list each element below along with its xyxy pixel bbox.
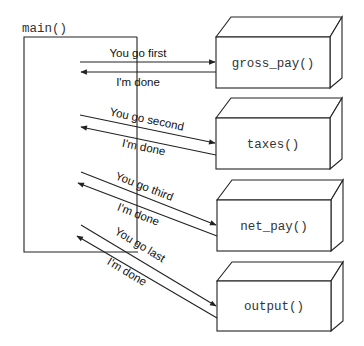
arrow-pair-1: You go first I'm done xyxy=(80,47,216,88)
arrow-pair-4: You go last I'm done xyxy=(77,225,217,318)
call-arrow xyxy=(81,225,216,306)
call-label: You go last xyxy=(113,225,168,265)
return-label: I'm done xyxy=(105,255,149,288)
return-label: I'm done xyxy=(116,201,161,228)
arrow-pair-3: You go third I'm done xyxy=(78,170,217,236)
function-box-output: output() xyxy=(217,262,343,331)
call-label: You go third xyxy=(114,170,175,203)
main-frame-outline xyxy=(24,37,138,252)
arrow-pair-2: You go second I'm done xyxy=(80,106,216,158)
function-box-net-pay: net_pay() xyxy=(217,180,343,251)
function-label: output() xyxy=(244,300,304,314)
call-label: You go first xyxy=(109,47,167,59)
return-label: I'm done xyxy=(116,76,160,88)
function-box-gross-pay: gross_pay() xyxy=(216,17,342,88)
function-box-taxes: taxes() xyxy=(216,98,342,169)
function-label: net_pay() xyxy=(240,220,308,234)
call-flow-diagram: main() gross_pay() taxes() net_pay() out… xyxy=(0,0,364,346)
function-label: gross_pay() xyxy=(232,57,315,71)
main-label: main() xyxy=(22,22,67,36)
function-label: taxes() xyxy=(247,138,300,152)
